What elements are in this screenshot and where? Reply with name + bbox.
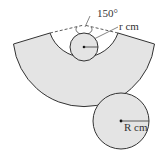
angle-label: 150° [97, 7, 118, 19]
dashed-line-left [50, 25, 84, 33]
large-radius-label: R cm [124, 121, 148, 133]
r-leader [92, 27, 118, 40]
angle-leader [85, 16, 90, 27]
cone-net-diagram: 150° r cm R cm [0, 0, 167, 154]
small-radius-label: r cm [119, 20, 139, 32]
dashed-line-right [84, 25, 118, 33]
